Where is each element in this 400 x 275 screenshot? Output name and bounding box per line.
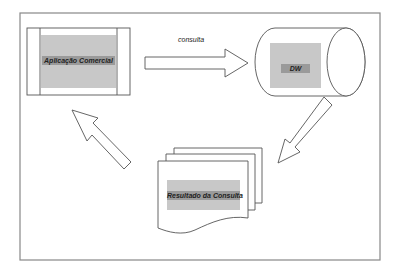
app-label: Aplicação Comercial [42, 56, 115, 65]
consulta-label: consulta [178, 36, 204, 43]
result-label: Resultado da Consulta [167, 191, 240, 200]
dw-label: DW [281, 64, 310, 73]
dw-node [255, 28, 365, 96]
